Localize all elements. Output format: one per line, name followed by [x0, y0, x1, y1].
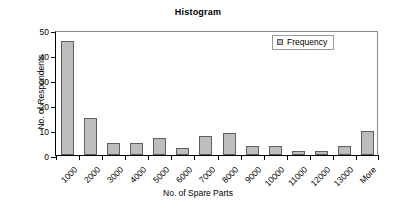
- y-tick-label: 30: [40, 78, 49, 87]
- bar-11000: [292, 151, 305, 155]
- legend-label-frequency: Frequency: [287, 38, 327, 47]
- x-tick-mark: [148, 155, 149, 160]
- plot-area: No. of Respondents 01020304050: [55, 31, 378, 156]
- x-tick-mark: [79, 155, 80, 160]
- legend-swatch-icon: [277, 39, 283, 45]
- y-tick-label: 50: [40, 28, 49, 37]
- bar-9000: [246, 146, 259, 155]
- x-tick-mark: [356, 155, 357, 160]
- x-tick-mark: [310, 155, 311, 160]
- x-tick-mark: [56, 155, 57, 160]
- x-tick-mark: [125, 155, 126, 160]
- bar-series: [56, 32, 377, 155]
- x-axis-title: No. of Spare Parts: [0, 188, 396, 198]
- x-tick-mark: [333, 155, 334, 160]
- legend: Frequency: [272, 35, 334, 50]
- y-tick-label: 0: [44, 153, 49, 162]
- x-tick-mark: [378, 155, 379, 160]
- bar-10000: [269, 146, 282, 155]
- bar-7000: [199, 136, 212, 155]
- bar-8000: [223, 133, 236, 156]
- chart-title: Histogram: [0, 7, 396, 17]
- histogram-chart: Histogram No. of Respondents 01020304050…: [0, 0, 396, 208]
- y-tick-label: 10: [40, 128, 49, 137]
- y-tick-label: 20: [40, 103, 49, 112]
- bar-6000: [176, 148, 189, 156]
- x-tick-mark: [171, 155, 172, 160]
- x-tick-mark: [287, 155, 288, 160]
- y-tick-label: 40: [40, 53, 49, 62]
- bar-13000: [338, 146, 351, 155]
- x-tick-mark: [218, 155, 219, 160]
- bar-5000: [153, 138, 166, 156]
- bar-1000: [61, 41, 74, 155]
- bar-2000: [84, 118, 97, 156]
- bar-More: [361, 131, 374, 155]
- x-tick-mark: [241, 155, 242, 160]
- x-tick-mark: [264, 155, 265, 160]
- x-tick-mark: [102, 155, 103, 160]
- bar-4000: [130, 143, 143, 156]
- bar-3000: [107, 143, 120, 156]
- bar-12000: [315, 151, 328, 155]
- x-tick-mark: [194, 155, 195, 160]
